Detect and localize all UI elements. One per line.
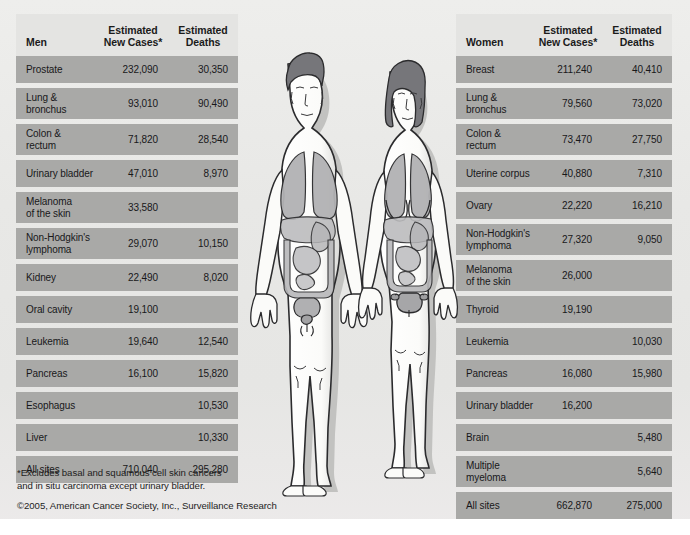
men-site-line2: lymphoma [26, 244, 90, 256]
men-site-label: Leukemia [26, 336, 69, 348]
male-left-arm [256, 170, 284, 300]
men-deaths-value: 10,530 [168, 400, 228, 411]
male-anatomy-figure [251, 53, 368, 496]
women-deaths-value: 275,000 [602, 500, 662, 511]
men-header-new-cases-line1: Estimated [100, 25, 166, 37]
men-header-deaths-line1: Estimated [174, 25, 232, 37]
men-header-deaths: Estimated Deaths [174, 25, 232, 48]
men-site-label: Non-Hodgkin'slymphoma [26, 232, 90, 255]
male-prostate [301, 315, 312, 324]
women-site-label: Leukemia [466, 336, 509, 348]
men-site-label: Lung &bronchus [26, 92, 66, 115]
women-site-label: Non-Hodgkin'slymphoma [466, 228, 530, 251]
women-site-line2: lymphoma [466, 240, 530, 252]
men-header-new-cases: Estimated New Cases* [100, 25, 166, 48]
women-site-label: Multiplemyeloma [466, 460, 506, 483]
male-feet [283, 486, 326, 496]
table-row: All sites662,870275,000 [456, 492, 672, 519]
female-uterus [397, 293, 422, 313]
men-site-line1: Non-Hodgkin's [26, 232, 90, 244]
men-site-label: Prostate [26, 64, 62, 76]
women-new-cases-value: 40,880 [532, 168, 592, 179]
men-new-cases-value: 16,100 [96, 368, 158, 379]
women-site-label: Urinary bladder [466, 400, 533, 412]
men-site-line1: Melanoma [26, 196, 72, 208]
female-anatomy-figure [359, 61, 458, 478]
women-deaths-value: 5,640 [602, 466, 662, 477]
women-statistics-table: Women Estimated New Cases* Estimated Dea… [456, 14, 672, 524]
anatomy-svg [232, 36, 462, 506]
men-new-cases-value: 232,090 [96, 64, 158, 75]
men-site-line2: of the skin [26, 208, 72, 220]
women-deaths-value: 16,210 [602, 200, 662, 211]
women-deaths-value: 10,030 [602, 336, 662, 347]
women-site-line1: Melanoma [466, 264, 512, 276]
men-site-label: Kidney [26, 272, 56, 284]
men-new-cases-value: 19,100 [96, 304, 158, 315]
table-row: Urinary bladder16,200 [456, 392, 672, 419]
table-row: Urinary bladder47,0108,970 [16, 160, 238, 187]
table-row: Kidney22,4908,020 [16, 264, 238, 291]
women-new-cases-value: 26,000 [532, 270, 592, 281]
women-new-cases-value: 27,320 [532, 234, 592, 245]
women-site-label: Pancreas [466, 368, 507, 380]
women-site-label: All sites [466, 500, 500, 512]
women-site-line1: Lung & [466, 92, 506, 104]
women-deaths-value: 15,980 [602, 368, 662, 379]
table-row: Brain5,480 [456, 424, 672, 451]
table-row: Melanomaof the skin33,580 [16, 192, 238, 223]
male-left-hand [251, 294, 277, 328]
women-deaths-value: 9,050 [602, 234, 662, 245]
table-row: Pancreas16,08015,980 [456, 360, 672, 387]
women-new-cases-value: 22,220 [532, 200, 592, 211]
table-row: Colon &rectum71,82028,540 [16, 124, 238, 155]
men-site-line2: bronchus [26, 104, 66, 116]
table-row: Lung &bronchus79,56073,020 [456, 88, 672, 119]
men-new-cases-value: 19,640 [96, 336, 158, 347]
men-new-cases-value: 33,580 [96, 202, 158, 213]
table-row: Breast211,24040,410 [456, 56, 672, 83]
men-header-new-cases-line2: New Cases* [100, 37, 166, 49]
table-row: Non-Hodgkin'slymphoma29,07010,150 [16, 228, 238, 259]
women-new-cases-value: 19,190 [532, 304, 592, 315]
women-new-cases-value: 16,080 [532, 368, 592, 379]
women-site-line1: Non-Hodgkin's [466, 228, 530, 240]
men-site-line1: Lung & [26, 92, 66, 104]
table-row: Oral cavity19,100 [16, 296, 238, 323]
women-header-new-cases-line1: Estimated [536, 25, 600, 37]
men-deaths-value: 8,020 [168, 272, 228, 283]
men-header-label: Men [26, 37, 47, 49]
anatomy-illustration-group [232, 36, 462, 506]
female-left-arm [363, 172, 387, 293]
women-deaths-value: 7,310 [602, 168, 662, 179]
women-new-cases-value: 211,240 [532, 64, 592, 75]
female-right-hand [434, 288, 457, 319]
men-statistics-table: Men Estimated New Cases* Estimated Death… [16, 14, 238, 488]
men-table-body: Prostate232,09030,350Lung &bronchus93,01… [16, 56, 238, 483]
women-header-deaths-line1: Estimated [608, 25, 666, 37]
table-row: Non-Hodgkin'slymphoma27,3209,050 [456, 224, 672, 255]
men-site-label: Pancreas [26, 368, 67, 380]
women-site-label: Melanomaof the skin [466, 264, 512, 287]
table-row: Prostate232,09030,350 [16, 56, 238, 83]
men-deaths-value: 28,540 [168, 134, 228, 145]
women-site-line2: bronchus [466, 104, 506, 116]
women-site-label: Lung &bronchus [466, 92, 506, 115]
men-new-cases-value: 93,010 [96, 98, 158, 109]
men-deaths-value: 10,330 [168, 432, 228, 443]
women-new-cases-value: 73,470 [532, 134, 592, 145]
men-deaths-value: 10,150 [168, 238, 228, 249]
women-header-label: Women [466, 37, 503, 49]
women-deaths-value: 5,480 [602, 432, 662, 443]
men-header-deaths-line2: Deaths [174, 37, 232, 49]
women-deaths-value: 40,410 [602, 64, 662, 75]
women-site-label: Uterine corpus [466, 168, 530, 180]
table-row: Ovary22,22016,210 [456, 192, 672, 219]
men-deaths-value: 90,490 [168, 98, 228, 109]
table-row: Leukemia19,64012,540 [16, 328, 238, 355]
women-header-new-cases-line2: New Cases* [536, 37, 600, 49]
women-site-label: Brain [466, 432, 489, 444]
men-site-label: Melanomaof the skin [26, 196, 72, 219]
female-left-hand [359, 288, 382, 319]
table-row: Pancreas16,10015,820 [16, 360, 238, 387]
